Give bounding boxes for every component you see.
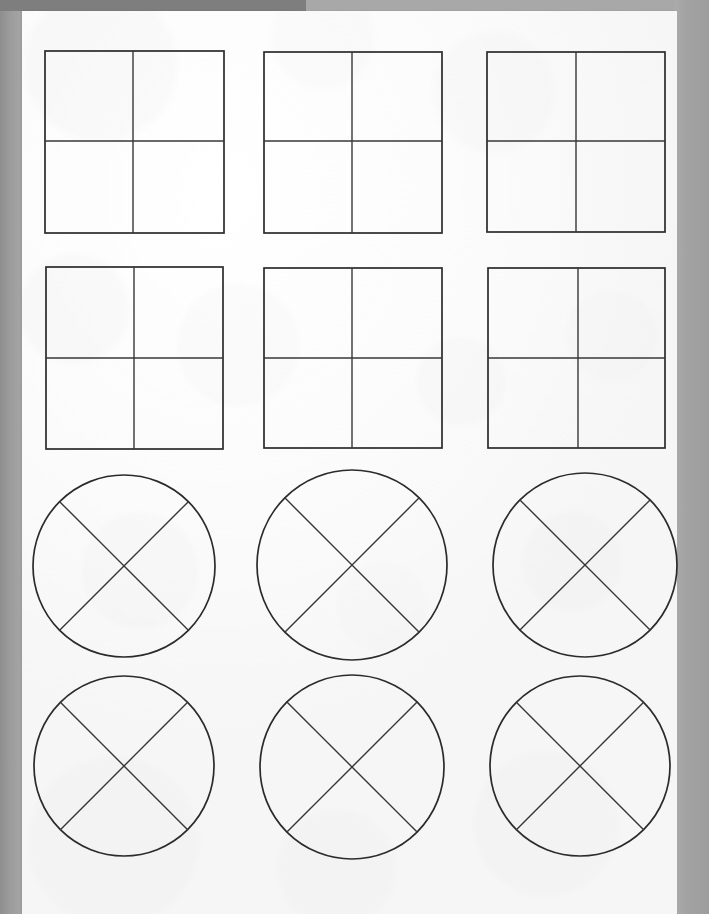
square-divided-into-fourths — [264, 52, 442, 233]
square-outline — [45, 51, 224, 233]
square-divided-into-fourths — [264, 268, 442, 448]
circle-divided-into-fourths — [493, 473, 677, 657]
circle-divided-into-fourths — [34, 676, 214, 856]
square-divided-into-fourths — [45, 51, 224, 233]
square-divided-into-fourths — [487, 52, 665, 232]
square-divided-into-fourths — [46, 267, 223, 449]
circle-divided-into-fourths — [260, 675, 444, 859]
square-outline — [264, 52, 442, 233]
circle-divided-into-fourths — [490, 676, 670, 856]
square-divided-into-fourths — [488, 268, 665, 448]
circle-divided-into-fourths — [257, 470, 447, 660]
circle-divided-into-fourths — [33, 475, 215, 657]
scanned-page — [0, 0, 709, 914]
shapes-layer — [0, 0, 709, 914]
